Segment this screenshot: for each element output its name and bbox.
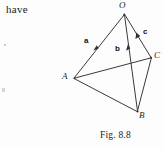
tetrahedron-diagram <box>0 0 164 149</box>
edge-AB <box>75 79 137 112</box>
vertex-label-A: A <box>62 71 68 81</box>
vector-label-c: c <box>143 27 147 36</box>
vertex-point-O <box>123 14 125 16</box>
vertex-label-C: C <box>154 50 160 60</box>
vertex-point-A <box>73 77 75 79</box>
vertex-label-B: B <box>139 110 145 120</box>
figure-caption: Fig. 8.8 <box>100 130 131 140</box>
vertex-point-C <box>150 57 152 59</box>
figure-page: have O A B C a b c Fig. 8.8 <box>0 0 164 149</box>
vertex-label-O: O <box>119 0 126 10</box>
edge-BC <box>138 59 152 112</box>
edge-AC <box>75 58 151 78</box>
vector-label-a: a <box>84 36 88 45</box>
vector-label-b: b <box>115 44 120 53</box>
